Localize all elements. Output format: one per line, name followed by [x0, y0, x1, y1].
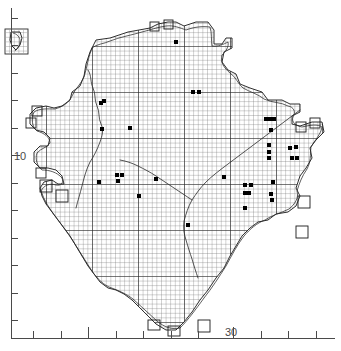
- record-dot: [288, 146, 292, 150]
- record-dot: [264, 117, 268, 121]
- record-dot: [271, 180, 275, 184]
- record-dot: [247, 191, 251, 195]
- detached-region-inset: [5, 29, 28, 54]
- record-dot: [222, 175, 226, 179]
- record-dot: [267, 143, 271, 147]
- record-dot: [269, 192, 273, 196]
- record-dot: [294, 145, 298, 149]
- x-axis-tick-label: 30: [225, 326, 237, 338]
- record-dot: [154, 177, 158, 181]
- record-dot: [100, 127, 104, 131]
- record-dot: [295, 156, 299, 160]
- record-dot: [268, 117, 272, 121]
- record-dot: [267, 150, 271, 154]
- record-dot: [174, 40, 178, 44]
- record-dot: [267, 156, 271, 160]
- record-dot: [249, 183, 253, 187]
- grid-overlay: [20, 18, 340, 338]
- record-dot: [269, 128, 273, 132]
- record-dot: [186, 223, 190, 227]
- record-dot: [197, 90, 201, 94]
- record-dot: [116, 179, 120, 183]
- map-body: [20, 18, 340, 338]
- record-dot: [270, 198, 274, 202]
- map-canvas: 10 30: [0, 0, 341, 351]
- record-dot: [97, 180, 101, 184]
- record-dot: [243, 206, 247, 210]
- left-axis: [12, 8, 21, 338]
- record-dot: [115, 173, 119, 177]
- record-dot: [137, 194, 141, 198]
- record-dot: [243, 183, 247, 187]
- atlas-map-figure: 10 30: [0, 0, 341, 351]
- record-dot: [99, 101, 103, 105]
- y-axis-tick-label: 10: [14, 150, 26, 162]
- record-dot: [272, 117, 276, 121]
- record-dot: [128, 126, 132, 130]
- record-dot: [191, 90, 195, 94]
- record-dot: [243, 191, 247, 195]
- record-dot: [290, 156, 294, 160]
- record-dot: [120, 173, 124, 177]
